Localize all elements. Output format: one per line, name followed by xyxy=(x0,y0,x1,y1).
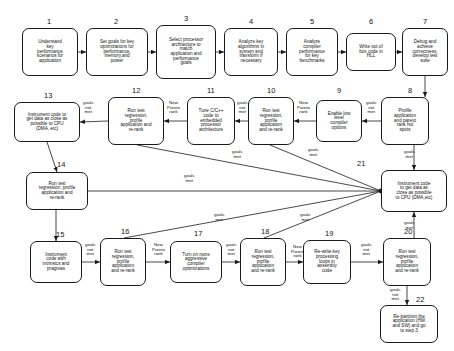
flowchart-canvas: Understand key performance scenarios for… xyxy=(0,0,454,351)
edge-label-el4: New Pareto rank xyxy=(297,101,310,115)
node-number-19: 19 xyxy=(325,230,333,238)
node-number-15: 15 xyxy=(56,231,64,239)
process-node-label: Re-write key processing loops in assembl… xyxy=(306,250,348,273)
process-node-13[interactable]: Instrument code to get data as close as … xyxy=(14,102,80,142)
node-number-11: 11 xyxy=(207,87,215,95)
node-number-3: 3 xyxy=(184,15,188,23)
edge-label-el16: New Pareto rank xyxy=(291,245,304,259)
edge-label-el17: goals not met xyxy=(361,243,372,257)
edge-label-el1: goals not met xyxy=(83,101,94,115)
edge-label-el7: goals met xyxy=(308,148,319,157)
edge-label-el8: goals met xyxy=(232,150,243,159)
process-node-label: Profile application and pareto rank hot … xyxy=(384,109,426,132)
edge-13-to-14 xyxy=(47,142,57,172)
node-number-6: 6 xyxy=(369,18,373,26)
node-number-10: 10 xyxy=(267,87,275,95)
edge-label-el12: goals met xyxy=(404,221,415,230)
node-number-5: 5 xyxy=(310,18,314,26)
process-node-11[interactable]: Tune C/C++ code to embedded processor ar… xyxy=(187,97,235,145)
process-node-15[interactable]: Instrument code with intrinsics and prag… xyxy=(30,241,82,283)
process-node-label: Run test regression, profile application… xyxy=(386,250,428,273)
process-node-8[interactable]: Profile application and pareto rank hot … xyxy=(381,97,429,145)
process-node-label: Run test regression, profile application… xyxy=(243,250,283,273)
process-node-label: Tune C/C++ code to embedded processor ar… xyxy=(190,109,232,132)
node-number-18: 18 xyxy=(261,228,269,236)
process-node-label: Debug and achieve correctness, develop t… xyxy=(405,40,445,63)
process-node-17[interactable]: Turn on more aggressive compiler optimiz… xyxy=(170,241,222,283)
node-number-7: 7 xyxy=(423,18,427,26)
process-node-3[interactable]: Select processor architecture to match a… xyxy=(156,25,216,79)
process-node-6[interactable]: Write out of box code in HLL xyxy=(346,33,396,71)
node-number-21: 21 xyxy=(357,160,365,168)
process-node-14[interactable]: Run test regression, profile application… xyxy=(26,172,88,210)
process-node-label: Run test regression, profile application… xyxy=(251,109,291,132)
edge-label-el13: goals not met xyxy=(85,243,96,257)
edge-label-el2: New Pareto rank xyxy=(167,101,180,115)
edge-label-el6: goals met xyxy=(404,150,415,159)
node-number-4: 4 xyxy=(249,18,253,26)
process-node-label: Instrument code to get data as close as … xyxy=(384,182,444,201)
process-node-22[interactable]: Re-partition the application (HW and SW)… xyxy=(380,305,438,343)
process-node-label: Instrument code to get data as close as … xyxy=(17,113,77,132)
process-node-12[interactable]: Run test regression, profile application… xyxy=(108,97,164,145)
process-node-label: Write out of box code in HLL xyxy=(349,45,393,59)
edge-label-el10: goals met xyxy=(214,213,225,222)
node-number-8: 8 xyxy=(408,87,412,95)
edge-10-to-21 xyxy=(270,145,381,191)
process-node-label: Run test regression, profile application… xyxy=(103,250,143,273)
edge-label-el3: goals not met xyxy=(237,101,248,115)
node-number-12: 12 xyxy=(132,87,140,95)
process-node-label: Select processor architecture to match a… xyxy=(159,38,213,66)
process-node-label: Run test regression, profile application… xyxy=(111,109,161,132)
process-node-label: Set goals for key optimizations for perf… xyxy=(89,40,145,63)
process-node-label: Run test regression, profile application… xyxy=(29,182,85,201)
edge-16-to-21 xyxy=(124,191,381,238)
process-node-label: Analyze compiler performance for key ben… xyxy=(289,40,335,63)
process-node-9[interactable]: Enable low level compiler options xyxy=(316,100,362,142)
edge-label-el11: goals met xyxy=(300,213,311,222)
process-node-1[interactable]: Understand key performance scenarios for… xyxy=(22,28,78,76)
edge-label-el15: goals not met xyxy=(226,243,237,257)
edge-label-el5: goals not met xyxy=(366,101,377,115)
process-node-20[interactable]: Run test regression, profile application… xyxy=(383,238,431,286)
process-node-label: Analyze key algorithms in system and tra… xyxy=(227,40,275,63)
process-node-label: Instrument code with intrinsics and prag… xyxy=(33,253,79,272)
process-node-5[interactable]: Analyze compiler performance for key ben… xyxy=(286,28,338,76)
process-node-10[interactable]: Run test regression, profile application… xyxy=(248,97,294,145)
node-number-14: 14 xyxy=(57,161,65,169)
edge-label-el18: goals not met xyxy=(390,288,401,302)
process-node-label: Enable low level compiler options xyxy=(319,112,359,131)
edge-label-el14: New Pareto rank xyxy=(152,243,165,257)
node-number-22: 22 xyxy=(416,296,424,304)
node-number-17: 17 xyxy=(194,230,202,238)
edge-label-el9: goals met xyxy=(184,174,195,183)
node-number-13: 13 xyxy=(44,92,52,100)
edge-18-to-21 xyxy=(264,191,381,238)
node-number-2: 2 xyxy=(114,18,118,26)
node-number-9: 9 xyxy=(337,87,341,95)
process-node-label: Re-partition the application (HW and SW)… xyxy=(383,315,435,334)
process-node-2[interactable]: Set goals for key optimizations for perf… xyxy=(86,28,148,76)
process-node-7[interactable]: Debug and achieve correctness, develop t… xyxy=(402,28,448,76)
process-node-label: Turn on more aggressive compiler optimiz… xyxy=(173,253,219,272)
process-node-21[interactable]: Instrument code to get data as close as … xyxy=(381,170,447,212)
process-node-19[interactable]: Re-write key processing loops in assembl… xyxy=(303,240,351,284)
process-node-16[interactable]: Run test regression, profile application… xyxy=(100,238,146,286)
node-number-1: 1 xyxy=(47,18,51,26)
edge-12-to-13 xyxy=(80,121,108,122)
node-number-16: 16 xyxy=(121,228,129,236)
process-node-18[interactable]: Run test regression, profile application… xyxy=(240,238,286,286)
process-node-4[interactable]: Analyze key algorithms in system and tra… xyxy=(224,28,278,76)
process-node-label: Understand key performance scenarios for… xyxy=(25,40,75,63)
edge-12-to-21 xyxy=(137,145,381,191)
